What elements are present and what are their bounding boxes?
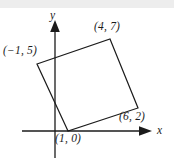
x-axis-arrowhead: [139, 126, 152, 136]
vertex-label-1-0: (1, 0): [55, 133, 81, 145]
vertex-label-4-7: (4, 7): [94, 21, 120, 33]
axes-group: [22, 20, 152, 158]
y-axis-arrowhead: [50, 20, 60, 32]
coordinate-geometry-figure: (−1, 5) (4, 7) (6, 2) (1, 0) x y: [0, 0, 174, 165]
y-axis-label: y: [50, 10, 55, 22]
vertex-label-minus1-5: (−1, 5): [3, 45, 37, 57]
x-axis-label: x: [157, 125, 162, 137]
plot-canvas: [0, 0, 174, 165]
vertex-label-6-2: (6, 2): [119, 111, 145, 123]
